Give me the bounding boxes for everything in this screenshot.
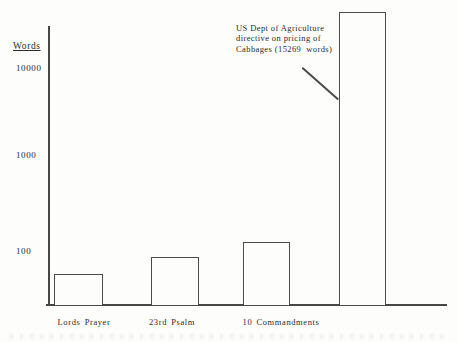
annotation-pointer-line — [302, 67, 339, 100]
y-tick-label-100: 100 — [16, 246, 31, 256]
y-axis-line — [48, 26, 50, 305]
bar-lords-prayer — [54, 274, 103, 306]
annotation-text: US Dept of Agriculture directive on pric… — [236, 23, 348, 54]
category-label-lords-prayer: Lords Prayer — [40, 317, 128, 327]
bar-cabbage-directive — [339, 12, 386, 306]
annotation-line-3: Cabbages (15269 words) — [236, 44, 348, 54]
category-label-10-commandments: 10 Commandments — [233, 317, 329, 327]
y-tick-label-1000: 1000 — [16, 150, 36, 160]
y-tick-label-10000: 10000 — [16, 63, 42, 73]
annotation-line-1: US Dept of Agriculture — [236, 23, 348, 33]
annotation-line-2: directive on pricing of — [236, 33, 348, 43]
y-axis-title: Words — [13, 41, 41, 51]
scan-artifact — [10, 334, 450, 339]
bar-10-commandments — [243, 242, 290, 306]
category-label-23rd-psalm: 23rd Psalm — [128, 317, 216, 327]
bar-23rd-psalm — [151, 257, 199, 306]
chart-canvas: Words 10000 1000 100 Lords Prayer 23rd P… — [0, 0, 458, 342]
